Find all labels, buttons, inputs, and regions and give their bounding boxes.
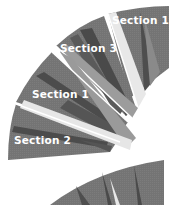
lower-fan [50,160,164,205]
label-section-top-right: Section 1 [112,14,169,26]
label-section-lower-left: Section 2 [14,134,71,146]
label-section-middle-left: Section 1 [32,88,89,100]
radial-fan-diagram: Section 1 Section 3 Section 1 Section 2 [0,0,169,205]
label-section-upper-middle: Section 3 [60,42,117,54]
